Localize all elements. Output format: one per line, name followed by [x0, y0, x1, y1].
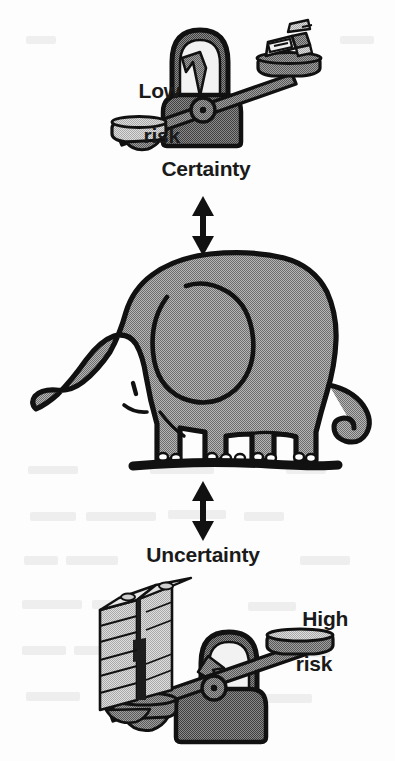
elephant-tail: [329, 385, 369, 442]
label-certainty: Certainty: [121, 158, 291, 181]
elephant-body: [33, 253, 336, 460]
elephant-ground-line: [133, 462, 338, 466]
elephant-mouth-line: [124, 405, 147, 412]
label-low-risk-line1: Low: [139, 79, 180, 102]
scale-pivot-top: [191, 98, 215, 122]
scale-pivot-bottom: [202, 676, 226, 700]
money-bundles-top: [266, 20, 312, 56]
figure-root: Low risk Certainty Uncertainty High risk: [0, 0, 395, 761]
label-low-risk-line2: risk: [96, 125, 180, 148]
label-uncertainty: Uncertainty: [108, 544, 298, 567]
label-high-risk-line1: High: [302, 607, 348, 630]
label-high-risk: High risk: [258, 585, 370, 721]
elephant-eye: [133, 383, 136, 394]
label-high-risk-line2: risk: [258, 653, 370, 676]
elephant: [33, 253, 370, 466]
arrow-certainty-to-elephant: [192, 196, 214, 256]
scale-gauge-top: [172, 30, 228, 98]
